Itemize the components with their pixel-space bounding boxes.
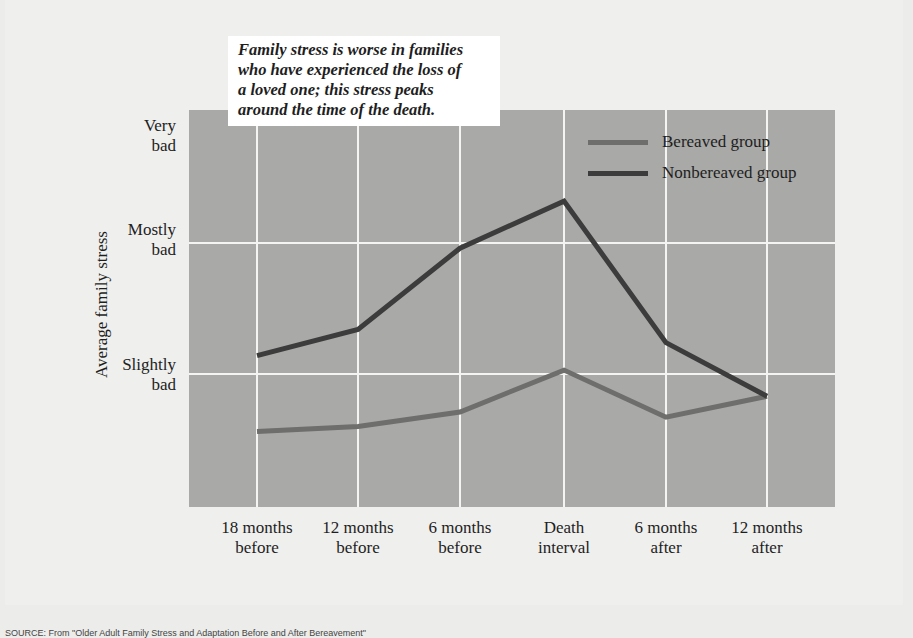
xtick-line: interval <box>509 538 619 558</box>
callout-line: a loved one; this stress peaks <box>238 80 500 100</box>
xtick-line: before <box>405 538 515 558</box>
y-axis-title: Average family stress <box>92 231 112 378</box>
xtick-line: 6 months <box>611 518 721 538</box>
callout-line: Family stress is worse in families <box>238 40 500 60</box>
legend-item-bereaved: Bereaved group <box>588 132 770 152</box>
xtick-line: 12 months <box>712 518 822 538</box>
xtick-12-months-before: 12 months before <box>303 518 413 558</box>
legend-item-nonbereaved: Nonbereaved group <box>588 163 797 183</box>
source-note: SOURCE: From "Older Adult Family Stress … <box>5 628 366 638</box>
xtick-6-months-after: 6 months after <box>611 518 721 558</box>
xtick-12-months-after: 12 months after <box>712 518 822 558</box>
xtick-line: after <box>712 538 822 558</box>
callout-line: around the time of the death. <box>238 100 500 120</box>
legend-swatch-bereaved <box>588 140 648 145</box>
legend-swatch-nonbereaved <box>588 171 648 176</box>
callout-line: who have experienced the loss of <box>238 60 500 80</box>
legend-label: Bereaved group <box>662 132 770 152</box>
xtick-line: Death <box>509 518 619 538</box>
callout-box: Family stress is worse in families who h… <box>228 36 500 126</box>
callout-text: Family stress is worse in families who h… <box>238 40 500 120</box>
xtick-line: before <box>303 538 413 558</box>
xtick-line: 18 months <box>202 518 312 538</box>
ytick-very-bad: Very bad <box>86 116 176 156</box>
ytick-line: Very <box>86 116 176 136</box>
ytick-line: bad <box>86 375 176 395</box>
xtick-line: after <box>611 538 721 558</box>
xtick-line: before <box>202 538 312 558</box>
xtick-6-months-before: 6 months before <box>405 518 515 558</box>
legend-label: Nonbereaved group <box>662 163 797 183</box>
ytick-line: bad <box>86 136 176 156</box>
xtick-line: 12 months <box>303 518 413 538</box>
xtick-death-interval: Death interval <box>509 518 619 558</box>
xtick-18-months-before: 18 months before <box>202 518 312 558</box>
xtick-line: 6 months <box>405 518 515 538</box>
